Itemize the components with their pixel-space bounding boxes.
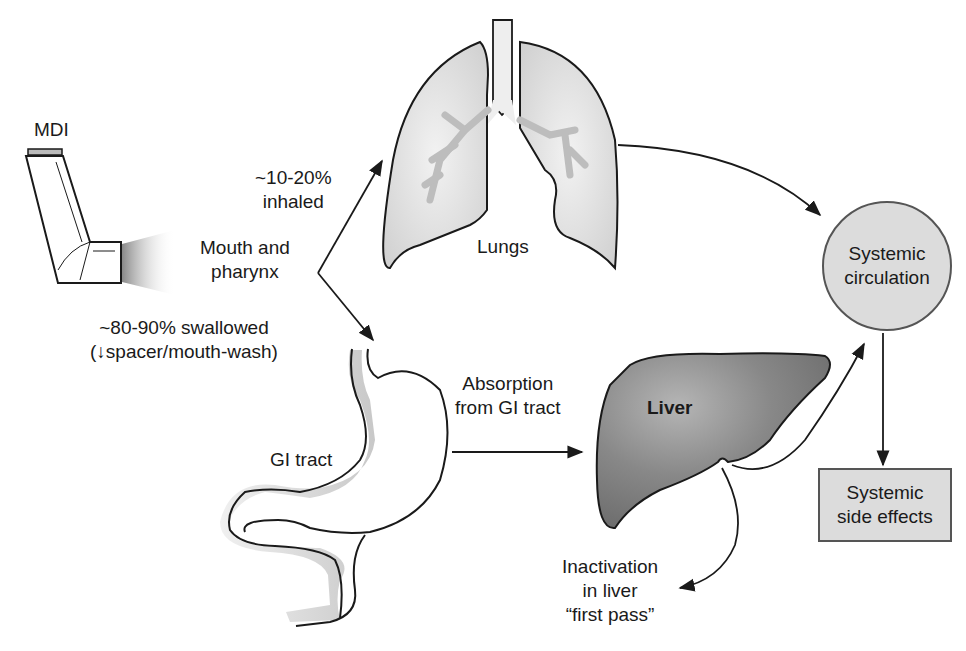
swallowed-line1: ~80-90% swallowed bbox=[90, 316, 278, 340]
first-pass-line1: Inactivation bbox=[562, 555, 658, 579]
inhaled-line1: ~10-20% bbox=[255, 166, 332, 190]
inhaled-percent-label: ~10-20% inhaled bbox=[255, 166, 332, 214]
absorption-line1: Absorption bbox=[455, 372, 561, 396]
side-effects-line1: Systemic bbox=[837, 481, 933, 505]
first-pass-line3: “first pass” bbox=[562, 603, 658, 627]
arrow-first-pass bbox=[680, 468, 738, 588]
lungs-label: Lungs bbox=[477, 235, 529, 259]
first-pass-label: Inactivation in liver “first pass” bbox=[562, 555, 658, 627]
circulation-line1: Systemic bbox=[844, 242, 930, 266]
mouth-pharynx-label: Mouth and pharynx bbox=[200, 236, 290, 284]
lungs-icon bbox=[383, 20, 617, 268]
gi-tract-label: GI tract bbox=[270, 448, 332, 472]
gi-tract-icon bbox=[220, 349, 448, 626]
circulation-line2: circulation bbox=[844, 266, 930, 290]
mouth-line2: pharynx bbox=[200, 260, 290, 284]
liver-icon bbox=[597, 353, 830, 528]
mdi-inhaler-icon bbox=[26, 149, 175, 295]
first-pass-line2: in liver bbox=[562, 579, 658, 603]
mdi-label: MDI bbox=[34, 118, 69, 142]
side-effects-line2: side effects bbox=[837, 505, 933, 529]
absorption-line2: from GI tract bbox=[455, 396, 561, 420]
swallowed-percent-label: ~80-90% swallowed (↓spacer/mouth-wash) bbox=[90, 316, 278, 364]
arrow-lungs-to-circulation bbox=[618, 145, 820, 215]
absorption-label: Absorption from GI tract bbox=[455, 372, 561, 420]
mouth-line1: Mouth and bbox=[200, 236, 290, 260]
systemic-circulation-node: Systemic circulation bbox=[822, 201, 952, 331]
systemic-side-effects-node: Systemic side effects bbox=[818, 468, 952, 542]
liver-label: Liver bbox=[647, 396, 692, 420]
swallowed-line2: (↓spacer/mouth-wash) bbox=[90, 340, 278, 364]
arrow-mouth-to-gi bbox=[318, 273, 373, 340]
inhaled-line2: inhaled bbox=[255, 190, 332, 214]
